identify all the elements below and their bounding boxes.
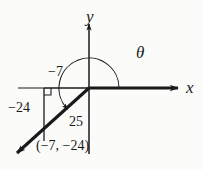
point-coordinate-label: (−7, −24): [36, 139, 89, 153]
x-axis-label: x: [186, 79, 194, 96]
right-angle-marker: [44, 88, 51, 95]
opposite-length-label: −24: [8, 101, 30, 115]
diagram-canvas: [0, 0, 203, 170]
theta-label: θ: [136, 44, 144, 61]
adjacent-length-label: −7: [48, 65, 63, 79]
angle-diagram: y x θ −7 −24 25 (−7, −24): [0, 0, 203, 170]
hypotenuse-length-label: 25: [69, 115, 83, 129]
y-axis-label: y: [86, 8, 94, 25]
